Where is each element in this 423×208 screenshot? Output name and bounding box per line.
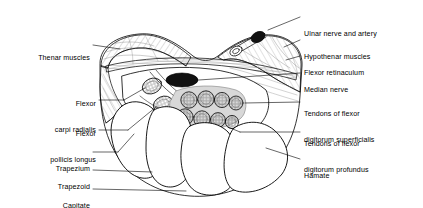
- leader-ulnar-nerve-and-artery: [268, 17, 300, 30]
- tendon-circle: [181, 92, 197, 108]
- label-thenar-muscles: Thenar muscles: [0, 37, 90, 80]
- tendon-circle: [198, 91, 214, 107]
- label-capitate: Capitate: [0, 185, 90, 208]
- figure-canvas: Thenar muscles Flexor carpi radialis Fle…: [0, 0, 423, 208]
- leader-capitate: [93, 189, 186, 191]
- median-nerve-body: [166, 73, 198, 87]
- tendon-circle: [214, 92, 229, 107]
- label-hamate: Hamate: [304, 155, 423, 198]
- tendon-circle: [229, 96, 243, 110]
- hamate-bone: [224, 122, 287, 192]
